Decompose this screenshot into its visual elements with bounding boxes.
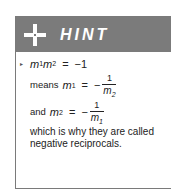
equation-m1: means m1 = − 1 m2 <box>20 74 171 98</box>
fraction: 1 m1 <box>90 101 104 125</box>
hint-content: ▸ m1 m2 = −1 means m1 = − 1 m2 and m2 = … <box>16 52 171 150</box>
equation-rhs: −1 <box>75 58 88 71</box>
fraction: 1 m2 <box>102 74 116 98</box>
plus-icon <box>24 24 46 46</box>
hint-title: HINT <box>60 26 109 44</box>
equation-product: ▸ m1 m2 = −1 <box>20 58 171 71</box>
explanation-line-1: which is why they are called <box>20 126 171 138</box>
bullet-icon: ▸ <box>20 61 26 68</box>
equation-m2: and m2 = − 1 m1 <box>20 101 171 125</box>
hint-header: HINT <box>16 17 171 52</box>
hint-box: HINT ▸ m1 m2 = −1 means m1 = − 1 m2 and … <box>15 16 171 189</box>
explanation-line-2: negative reciprocals. <box>20 138 171 150</box>
